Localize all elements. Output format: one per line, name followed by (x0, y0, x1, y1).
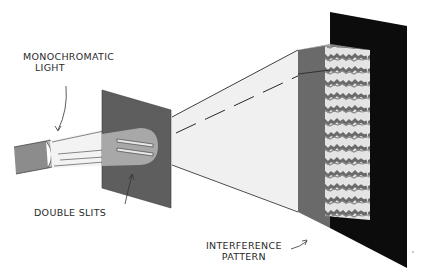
label-line-2: LIGHT (23, 62, 114, 73)
monochromatic-light-label: MONOCHROMATIC LIGHT (23, 51, 114, 73)
diffracted-beam (172, 50, 302, 212)
speck (412, 251, 413, 252)
pattern-arrow (291, 241, 307, 249)
label-line-1: MONOCHROMATIC (23, 51, 114, 62)
label-line-1: INTERFERENCE (206, 240, 282, 251)
label-line-2: PATTERN (206, 251, 282, 262)
interference-pattern (298, 44, 370, 228)
slit-panel (102, 90, 171, 208)
interference-pattern-label: INTERFERENCE PATTERN (206, 240, 282, 262)
incoming-beam (50, 128, 110, 168)
light-source (14, 140, 56, 174)
double-slits-label: DOUBLE SLITS (34, 207, 106, 218)
light-arrow (58, 86, 66, 130)
double-slit-diagram (0, 0, 421, 280)
